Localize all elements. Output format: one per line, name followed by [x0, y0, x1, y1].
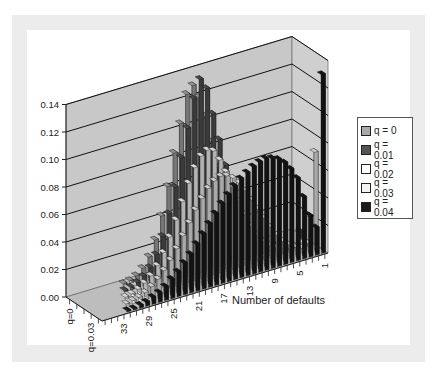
legend-item-q001: q = 0.01 — [361, 140, 409, 159]
legend-swatch — [361, 126, 371, 136]
svg-text:9: 9 — [269, 278, 280, 283]
y-axis: 0.000.020.040.060.080.100.120.14 — [41, 99, 67, 303]
x-axis-title: Number of defaults — [232, 294, 325, 306]
svg-text:0.10: 0.10 — [41, 154, 60, 165]
legend-item-q004: q = 0.04 — [361, 197, 409, 216]
svg-text:29: 29 — [143, 316, 154, 327]
legend-label: q = 0 — [374, 125, 397, 136]
svg-text:0.02: 0.02 — [41, 264, 60, 275]
legend-label: q = 0.04 — [374, 196, 409, 218]
svg-text:5: 5 — [294, 271, 305, 276]
svg-text:0.00: 0.00 — [41, 292, 60, 303]
legend-swatch — [361, 183, 371, 193]
svg-text:0.04: 0.04 — [41, 237, 60, 248]
svg-text:1: 1 — [319, 263, 330, 268]
svg-text:q=0.03: q=0.03 — [85, 323, 96, 352]
svg-text:33: 33 — [118, 323, 129, 334]
legend-item-q002: q = 0.02 — [361, 159, 409, 178]
svg-text:17: 17 — [218, 293, 229, 304]
legend-item-q003: q = 0.03 — [361, 178, 409, 197]
svg-text:0.08: 0.08 — [41, 182, 60, 193]
legend-item-q0: q = 0 — [361, 121, 409, 140]
legend: q = 0 q = 0.01 q = 0.02 q = 0.03 q = 0.0… — [357, 117, 413, 219]
svg-text:21: 21 — [193, 301, 204, 312]
svg-text:25: 25 — [168, 308, 179, 319]
legend-swatch — [361, 164, 371, 174]
svg-text:0.14: 0.14 — [41, 99, 60, 110]
svg-text:0.06: 0.06 — [41, 209, 60, 220]
legend-swatch — [361, 145, 371, 155]
svg-text:q=0: q=0 — [64, 308, 75, 324]
legend-swatch — [361, 202, 371, 212]
svg-text:0.12: 0.12 — [41, 127, 60, 138]
